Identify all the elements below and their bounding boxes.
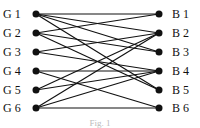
node-b5 <box>156 87 163 94</box>
node-label-b2: B 2 <box>172 26 189 40</box>
node-g1 <box>33 11 40 18</box>
node-b4 <box>156 68 163 75</box>
node-g2 <box>33 30 40 37</box>
node-b6 <box>156 105 163 112</box>
node-g3 <box>33 49 40 56</box>
node-b2 <box>156 30 163 37</box>
node-g6 <box>33 105 40 112</box>
node-g5 <box>33 87 40 94</box>
node-label-b4: B 4 <box>172 64 189 78</box>
node-label-g4: G 4 <box>3 64 21 78</box>
figure-caption: Fig. 1 <box>89 118 110 128</box>
edge-g1-b5 <box>36 14 159 90</box>
node-label-g1: G 1 <box>3 7 21 21</box>
node-label-g6: G 6 <box>3 101 21 115</box>
node-label-g5: G 5 <box>3 83 21 97</box>
node-label-b3: B 3 <box>172 45 189 59</box>
node-b3 <box>156 49 163 56</box>
edge-g1-b3 <box>36 14 159 52</box>
node-label-b6: B 6 <box>172 101 189 115</box>
edge-g5-b4 <box>36 71 159 90</box>
node-g4 <box>33 68 40 75</box>
node-label-g2: G 2 <box>3 26 21 40</box>
node-label-g3: G 3 <box>3 45 21 59</box>
node-label-b1: B 1 <box>172 7 189 21</box>
node-b1 <box>156 11 163 18</box>
edge-layer <box>36 14 159 108</box>
bipartite-graph: G 1G 2G 3G 4G 5G 6B 1B 2B 3B 4B 5B 6 Fig… <box>0 0 200 128</box>
node-label-b5: B 5 <box>172 83 189 97</box>
